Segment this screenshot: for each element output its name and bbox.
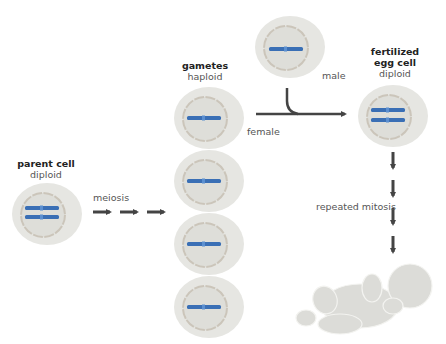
- parent-cell-title: parent cell: [6, 158, 86, 169]
- fertilized-egg-cell: [358, 85, 428, 147]
- baby-illustration: [296, 264, 432, 334]
- male-label: male: [322, 70, 346, 81]
- gamete-cell-2: [174, 150, 244, 212]
- mitosis-label: repeated mitosis: [316, 201, 396, 212]
- female-label: female: [247, 126, 280, 137]
- gametes-label: gametes haploid: [170, 60, 240, 82]
- gamete-cell-1: [174, 87, 244, 149]
- fertilization-arrow: [256, 88, 345, 114]
- meiosis-label: meiosis: [93, 192, 129, 203]
- gamete-cell-3: [174, 213, 244, 275]
- gametes-ploidy: haploid: [188, 71, 223, 82]
- fertilized-egg-title-2: egg cell: [360, 57, 430, 68]
- fertilized-egg-title-1: fertilized: [360, 46, 430, 57]
- parent-cell: [12, 183, 82, 245]
- parent-cell-label: parent cell diploid: [6, 158, 86, 180]
- gamete-cell-4: [174, 276, 244, 338]
- fertilized-egg-ploidy: diploid: [379, 68, 411, 79]
- parent-cell-ploidy: diploid: [30, 169, 62, 180]
- fertilized-egg-label: fertilized egg cell diploid: [360, 46, 430, 79]
- male-gamete-cell: [255, 16, 325, 78]
- gametes-title: gametes: [170, 60, 240, 71]
